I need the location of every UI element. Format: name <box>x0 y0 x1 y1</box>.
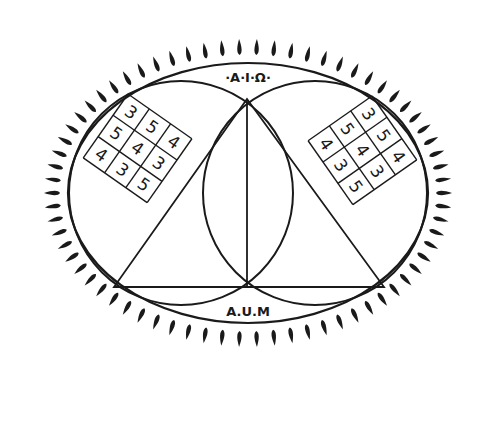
grid-number: 5 <box>106 122 126 145</box>
ray-teardrop <box>237 39 242 55</box>
grid-number: 5 <box>372 125 395 145</box>
ray-teardrop <box>45 203 61 209</box>
ray-teardrop <box>399 273 413 287</box>
ray-teardrop <box>201 327 208 343</box>
ray-teardrop <box>432 215 449 223</box>
grid-number: 4 <box>351 140 374 160</box>
ray-teardrop <box>64 251 80 264</box>
ray-teardrop <box>57 240 73 251</box>
ray-teardrop <box>271 40 277 56</box>
right-magic-square: 354543435 <box>308 96 417 205</box>
grid-number: 4 <box>315 134 338 154</box>
grid-number: 4 <box>164 131 184 154</box>
ray-teardrop <box>95 88 109 103</box>
ray-teardrop <box>47 162 64 170</box>
ray-teardrop <box>304 46 312 63</box>
ray-teardrop <box>45 176 61 182</box>
ray-teardrop <box>304 324 312 341</box>
ray-teardrop <box>51 228 68 238</box>
ray-teardrop <box>73 110 88 124</box>
ray-teardrop <box>167 50 176 67</box>
grid-number: 5 <box>345 176 368 196</box>
grid-number: 5 <box>134 173 154 196</box>
grid-number: 5 <box>142 116 162 139</box>
ray-teardrop <box>167 319 176 336</box>
ray-teardrop <box>363 70 375 86</box>
ray-teardrop <box>335 314 345 330</box>
ray-teardrop <box>219 330 225 346</box>
grid-number: 4 <box>91 143 111 166</box>
grid-number: 3 <box>121 101 141 124</box>
ray-corona <box>44 39 452 347</box>
ray-teardrop <box>399 99 413 113</box>
ray-teardrop <box>254 39 259 55</box>
ray-teardrop <box>288 327 295 343</box>
ray-teardrop <box>350 307 361 323</box>
mystic-diagram: 354543435 354543435 ·A·I·Ω· A.U.M <box>0 0 496 426</box>
ray-teardrop <box>363 300 375 316</box>
ray-teardrop <box>83 99 97 113</box>
ray-teardrop <box>436 191 452 195</box>
grid-number: 3 <box>330 155 353 175</box>
ray-teardrop <box>64 122 80 135</box>
ray-teardrop <box>95 282 109 297</box>
ray-teardrop <box>44 191 60 195</box>
ray-teardrop <box>428 149 445 159</box>
ray-teardrop <box>271 330 277 346</box>
ray-teardrop <box>288 42 295 58</box>
ray-teardrop <box>320 319 329 336</box>
ray-teardrop <box>335 56 345 72</box>
ray-teardrop <box>151 314 161 330</box>
ray-teardrop <box>423 135 439 146</box>
ray-teardrop <box>184 324 192 341</box>
ray-teardrop <box>388 88 402 103</box>
ray-teardrop <box>423 240 439 251</box>
ray-teardrop <box>151 56 161 72</box>
ray-teardrop <box>219 40 225 56</box>
ray-teardrop <box>121 300 133 316</box>
ray-teardrop <box>432 162 449 170</box>
ray-teardrop <box>121 70 133 86</box>
ray-teardrop <box>376 79 389 95</box>
ray-teardrop <box>408 110 423 124</box>
grid-number: 3 <box>366 161 389 181</box>
ray-teardrop <box>408 262 423 276</box>
ray-teardrop <box>435 176 451 182</box>
ray-teardrop <box>416 122 432 135</box>
grid-number: 4 <box>127 137 147 160</box>
ray-teardrop <box>51 149 68 159</box>
ray-teardrop <box>73 262 88 276</box>
grid-number: 4 <box>387 147 410 167</box>
left-magic-square: 354543435 <box>83 94 192 203</box>
top-label: ·A·I·Ω· <box>225 70 271 85</box>
ray-teardrop <box>136 307 147 323</box>
ray-teardrop <box>237 331 242 347</box>
ray-teardrop <box>428 228 445 238</box>
ray-teardrop <box>107 79 120 95</box>
grid-number: 5 <box>336 119 359 139</box>
ray-teardrop <box>47 215 64 223</box>
ray-teardrop <box>350 62 361 78</box>
ray-teardrop <box>57 135 73 146</box>
ray-teardrop <box>254 331 259 347</box>
ray-teardrop <box>388 282 402 297</box>
ray-teardrop <box>136 62 147 78</box>
ray-teardrop <box>201 42 208 58</box>
ray-teardrop <box>320 50 329 67</box>
grid-number: 3 <box>112 158 132 181</box>
grid-number: 3 <box>149 152 169 175</box>
ray-teardrop <box>107 291 120 307</box>
ray-teardrop <box>83 273 97 287</box>
bottom-label: A.U.M <box>226 304 270 319</box>
grid-number: 3 <box>358 104 381 124</box>
ray-teardrop <box>435 203 451 209</box>
ray-teardrop <box>376 291 389 307</box>
ray-teardrop <box>416 251 432 264</box>
ray-teardrop <box>184 46 192 63</box>
